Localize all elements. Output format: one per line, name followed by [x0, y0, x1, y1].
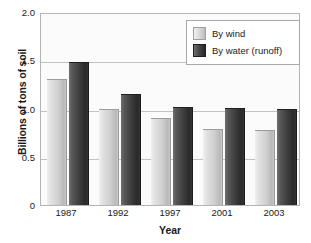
y-axis-tick-label: 2.0: [22, 8, 35, 18]
bar-1992-wind: [99, 109, 119, 205]
legend-item-wind: By wind: [193, 25, 294, 42]
y-axis-tick-label: 0: [30, 201, 35, 211]
x-axis-tick-label: 1987: [40, 208, 92, 218]
bar-2003-water: [277, 109, 297, 205]
bar-2001-water: [225, 108, 245, 206]
bar-1992-water: [121, 94, 141, 205]
chart-legend: By wind By water (runoff): [186, 20, 300, 65]
y-axis-tick-labels: 2.01.51.00.50: [0, 0, 38, 243]
bar-group: [47, 14, 88, 205]
x-axis-tick-labels: 19871992199720012003: [40, 208, 300, 224]
x-axis-tick-label: 1997: [144, 208, 196, 218]
bar-1987-wind: [47, 79, 67, 205]
bar-2001-wind: [203, 129, 223, 205]
x-axis-tick-label: 2001: [196, 208, 248, 218]
legend-item-water: By water (runoff): [193, 42, 294, 59]
legend-swatch-water-icon: [193, 44, 206, 57]
x-axis-tick-label: 1992: [92, 208, 144, 218]
bar-chart: Billions of tons of soil 2.01.51.00.50 1…: [0, 0, 311, 243]
bar-2003-wind: [255, 130, 275, 205]
legend-label-water: By water (runoff): [212, 46, 282, 56]
x-axis-title: Year: [40, 224, 300, 236]
y-axis-tick-label: 1.0: [22, 105, 35, 115]
bar-group: [99, 14, 140, 205]
bar-1997-wind: [151, 118, 171, 205]
bar-1987-water: [69, 62, 89, 205]
legend-swatch-wind-icon: [193, 27, 206, 40]
y-axis-tick-label: 0.5: [22, 153, 35, 163]
bar-1997-water: [173, 107, 193, 205]
legend-label-wind: By wind: [212, 29, 245, 39]
x-axis-tick-label: 2003: [248, 208, 300, 218]
y-axis-tick-label: 1.5: [22, 56, 35, 66]
